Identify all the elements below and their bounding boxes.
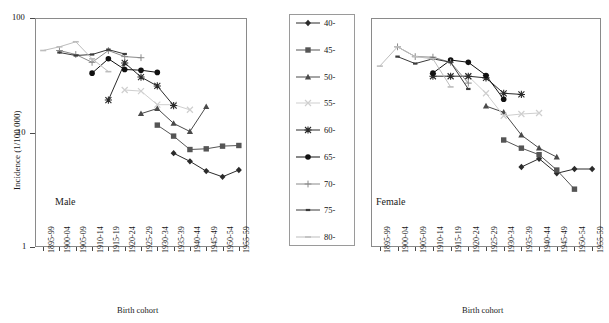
data-point-dash [395,56,399,58]
data-point-line [430,58,436,60]
legend-marker-circle-icon [295,152,321,162]
x-tick-label-female: 1910-14 [436,226,445,253]
data-point-diamond [589,166,595,172]
x-tick-mark [415,247,416,251]
series-70 [394,43,472,86]
legend-item-40[interactable]: 40- [295,18,335,28]
x-tick-mark [380,247,381,251]
data-point-circle [466,60,472,66]
x-tick-mark [539,247,540,251]
data-point-diamond [518,164,524,170]
x-tick-mark [557,247,558,251]
x-tick-mark [504,247,505,251]
x-tick-label-female: 1905-09 [419,226,428,253]
data-point-square [519,145,524,150]
x-tick-label-female: 1925-29 [490,226,499,253]
data-point-circle [430,70,436,76]
data-point-line [377,65,383,67]
x-tick-label-female: 1945-49 [560,226,569,253]
data-point-dash [413,62,417,64]
data-point-line [395,46,401,48]
data-point-dash [448,61,452,63]
x-tick-mark [521,247,522,251]
legend-label: 80- [324,232,335,242]
data-point-diamond [571,166,577,172]
data-point-square [554,167,559,172]
data-point-asterisk [304,126,311,133]
data-point-line [412,56,418,58]
x-tick-label-female: 1915-19 [454,226,463,253]
data-point-square [536,152,541,157]
data-point-line [305,236,311,238]
data-point-square [305,47,310,52]
legend-label: 65- [324,152,335,162]
legend-label: 45- [324,45,335,55]
data-point-circle [305,154,311,160]
data-point-square [501,137,506,142]
data-point-square [572,186,577,191]
x-axis-title-female: Birth cohort [462,305,503,315]
legend-marker-diamond-icon [295,18,321,28]
figure-root: Incidence (1/100 000) 100101 Male 1895-9… [0,0,609,323]
legend-item-75[interactable]: 75- [295,205,335,215]
data-point-triangle [554,154,560,160]
x-tick-mark [398,247,399,251]
data-point-diamond [305,20,311,26]
x-tick-mark [468,247,469,251]
legend-item-70[interactable]: 70- [295,179,335,189]
data-point-plus [305,180,312,187]
x-tick-label-female: 1900-04 [401,226,410,253]
legend-item-80[interactable]: 80- [295,232,335,242]
data-point-asterisk [447,73,454,80]
data-point-asterisk [465,73,472,80]
x-tick-mark [592,247,593,251]
legend-item-65[interactable]: 65- [295,152,335,162]
legend-label: 40- [324,18,335,28]
legend-marker-plus-icon [295,179,321,189]
data-point-triangle [536,145,542,151]
data-point-dash [466,88,470,90]
legend-marker-square-icon [295,45,321,55]
data-point-dash [306,209,310,211]
legend-label: 55- [324,98,335,108]
x-tick-mark [433,247,434,251]
x-tick-label-female: 1920-24 [472,226,481,253]
legend-marker-cross-x-icon [295,98,321,108]
legend-marker-triangle-icon [295,72,321,82]
data-point-line [448,86,454,88]
legend-label: 50- [324,72,335,82]
legend-item-55[interactable]: 55- [295,98,335,108]
legend-marker-asterisk-icon [295,125,321,135]
legend-marker-line-icon [295,232,321,242]
legend-label: 75- [324,205,335,215]
data-point-asterisk [518,91,525,98]
legend-marker-dash-icon [295,205,321,215]
x-tick-mark [574,247,575,251]
legend-label: 70- [324,179,335,189]
panel-label-female: Female [376,196,405,207]
data-point-triangle [483,103,489,109]
data-point-circle [483,73,489,79]
x-tick-mark [451,247,452,251]
data-point-circle [501,96,507,102]
x-tick-mark [486,247,487,251]
x-tick-label-female: 1930-34 [507,226,516,253]
x-tick-label-female: 1950-54 [578,226,587,253]
series-line [380,47,451,87]
x-tick-label-female: 1955-59 [596,226,605,253]
x-tick-label-female: 1940-44 [543,226,552,253]
series-50 [483,103,560,160]
legend-item-60[interactable]: 60- [295,125,335,135]
legend-item-45[interactable]: 45- [295,45,335,55]
x-tick-label-female: 1895-99 [383,226,392,253]
legend-label: 60- [324,125,335,135]
legend-item-50[interactable]: 50- [295,72,335,82]
x-tick-label-female: 1935-39 [525,226,534,253]
data-point-cross-x [483,90,489,96]
